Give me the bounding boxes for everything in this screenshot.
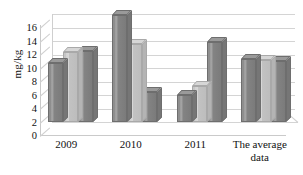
y-axis-tick-label: 2: [32, 118, 37, 128]
bar-side-face: [78, 48, 83, 122]
y-axis-tick-label: 14: [27, 37, 38, 47]
x-axis-category-label: 2010: [99, 138, 164, 151]
bar-chart: mg/kg 0246810121416 200920102011The aver…: [0, 0, 303, 175]
x-axis-category-label: The averagedata: [228, 138, 293, 164]
bar: [177, 95, 192, 122]
bar: [112, 15, 127, 122]
x-axis-category-label-line: data: [228, 151, 293, 164]
bar-front-face: [48, 63, 63, 122]
y-axis-tick-label: 16: [27, 23, 38, 33]
x-axis-category-label: 2011: [163, 138, 228, 151]
bar-front-face: [112, 15, 127, 122]
y-axis-tick-label: 4: [32, 104, 37, 114]
bar-side-face: [127, 11, 132, 122]
bar-side-face: [222, 37, 227, 122]
y-axis-tick-label: 6: [32, 91, 37, 101]
bars-layer: [40, 14, 298, 136]
bar-side-face: [271, 55, 276, 122]
x-axis-category-label-line: 2009: [34, 138, 99, 151]
bar: [241, 59, 256, 122]
bar-side-face: [207, 81, 212, 122]
y-axis-tick-label: 12: [27, 50, 38, 60]
x-axis-category-label-line: The average: [228, 138, 293, 151]
x-axis-category-label: 2009: [34, 138, 99, 151]
x-axis-category-label-line: 2011: [163, 138, 228, 151]
bar-side-face: [63, 59, 68, 122]
x-axis-category-label-line: 2010: [99, 138, 164, 151]
bar-side-face: [192, 90, 197, 122]
x-axis-category-labels: 200920102011The averagedata: [40, 138, 298, 175]
bar-front-face: [241, 59, 256, 122]
bar-side-face: [256, 55, 261, 122]
bar-side-face: [142, 40, 147, 122]
y-axis-tick-label: 8: [32, 77, 37, 87]
bar-side-face: [93, 46, 98, 122]
bar-side-face: [286, 57, 291, 122]
y-axis-tick-label: 10: [27, 64, 38, 74]
bar-front-face: [177, 95, 192, 122]
bar-side-face: [157, 88, 162, 122]
bar: [48, 63, 63, 122]
